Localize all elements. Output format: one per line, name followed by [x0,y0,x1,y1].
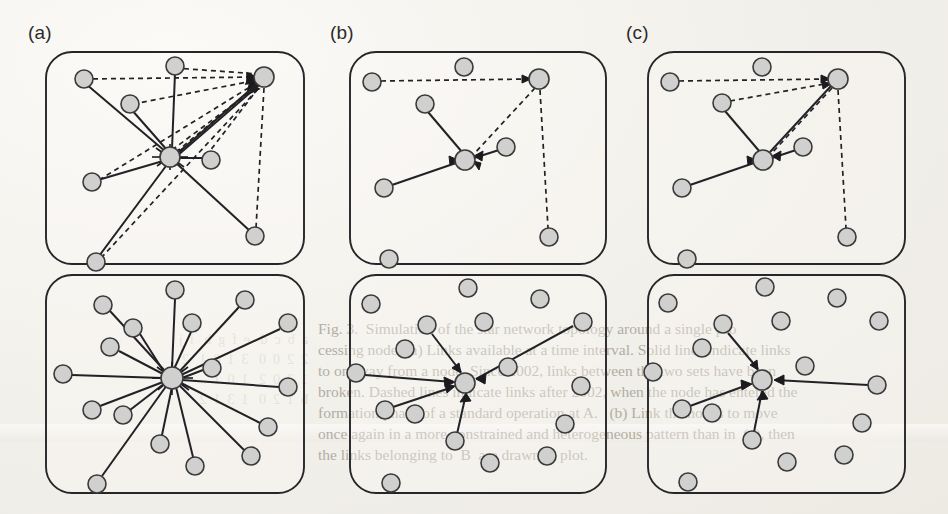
figure-panel-grid: (a) [0,0,948,514]
